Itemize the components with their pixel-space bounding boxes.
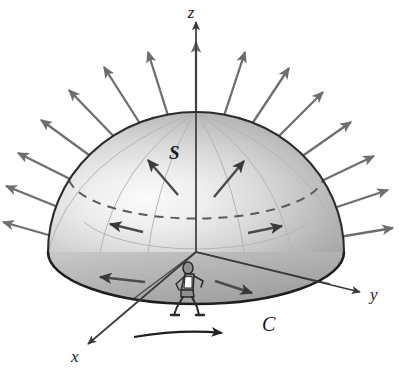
y-axis-label: y [368,285,378,304]
normal-vector-left-4 [3,222,52,236]
person-head [183,262,193,274]
z-axis-label: z [187,3,195,22]
stokes-theorem-figure: z y x S C [0,0,399,377]
curve-label-c: C [262,313,276,335]
normal-vector-right-4 [339,228,393,237]
normal-vector-left-3 [6,186,63,209]
person-chest-panel [184,277,192,288]
person-hips [181,290,194,297]
orientation-direction-arrow [134,332,222,337]
surface-label-s: S [169,142,180,163]
figure-canvas: z y x S C [0,0,399,377]
x-axis-label: x [70,347,79,366]
